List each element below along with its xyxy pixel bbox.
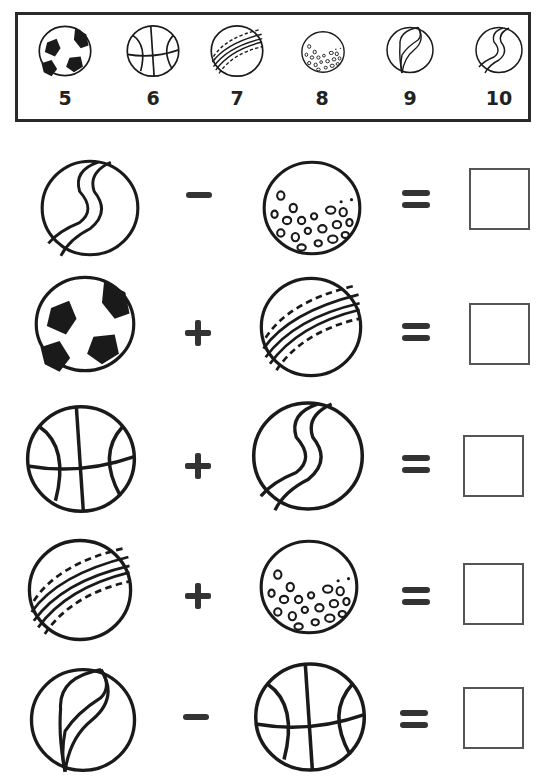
s-swirl-marble-icon <box>474 25 524 75</box>
leaf-swirl-marble-icon <box>24 664 142 776</box>
key-value: 6 <box>118 87 188 109</box>
key-value: 7 <box>202 87 272 109</box>
basketball-icon <box>22 401 140 517</box>
answer-box-2[interactable] <box>469 303 530 365</box>
plus-icon <box>185 583 211 609</box>
ball-value-key: 5 6 7 8 9 10 <box>15 12 531 122</box>
basketball-icon <box>125 23 181 79</box>
key-item-soccer-ball: 5 <box>30 15 100 119</box>
golf-ball-icon <box>256 156 368 260</box>
answer-box-3[interactable] <box>463 435 524 497</box>
answer-box-1[interactable] <box>469 168 530 230</box>
cricket-ball-icon <box>24 535 136 645</box>
problem-row-2 <box>0 265 538 390</box>
equals-icon <box>400 710 428 732</box>
golf-ball-icon <box>254 535 364 639</box>
soccer-ball-icon <box>37 23 93 79</box>
key-value: 5 <box>30 87 100 109</box>
equals-icon <box>402 190 430 212</box>
basketball-icon <box>248 658 372 776</box>
key-item-leaf-swirl-marble: 9 <box>375 15 445 119</box>
cricket-ball-icon <box>254 273 368 381</box>
golf-ball-icon <box>300 29 346 75</box>
minus-icon <box>186 190 212 200</box>
problem-row-5 <box>0 650 538 770</box>
minus-icon <box>183 712 209 722</box>
key-item-basketball: 6 <box>118 15 188 119</box>
s-swirl-marble-icon <box>38 156 142 260</box>
answer-box-5[interactable] <box>463 687 524 749</box>
leaf-swirl-marble-icon <box>385 25 435 75</box>
equals-icon <box>402 587 430 609</box>
equals-icon <box>402 323 430 345</box>
cricket-ball-icon <box>209 23 265 79</box>
key-value: 8 <box>287 87 357 109</box>
key-value: 10 <box>464 87 534 109</box>
key-item-cricket-ball: 7 <box>202 15 272 119</box>
equals-icon <box>402 455 430 477</box>
key-item-s-swirl-marble: 10 <box>464 15 534 119</box>
soccer-ball-icon <box>32 271 138 377</box>
s-swirl-marble-icon <box>246 397 370 515</box>
problem-row-4 <box>0 525 538 650</box>
plus-icon <box>185 320 211 346</box>
problem-row-3 <box>0 395 538 520</box>
key-item-golf-ball: 8 <box>287 15 357 119</box>
key-value: 9 <box>375 87 445 109</box>
problem-row-1 <box>0 140 538 265</box>
plus-icon <box>185 453 211 479</box>
answer-box-4[interactable] <box>463 563 524 625</box>
